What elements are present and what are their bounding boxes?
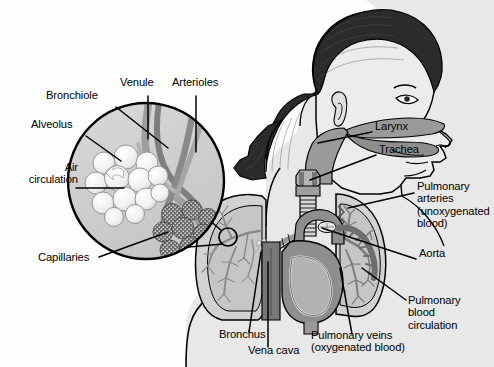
label-vena-cava: Vena cava (248, 344, 299, 356)
label-pulmonary-blood-circulation: Pulmonary blood circulation (408, 294, 461, 331)
label-trachea: Trachea (379, 143, 419, 155)
label-arterioles: Arterioles (172, 76, 218, 88)
label-larynx: Larynx (375, 120, 408, 132)
label-capillaries: Capillaries (38, 251, 89, 263)
respiratory-system-diagram: Bronchiole Alveolus Air circulation Capi… (0, 0, 494, 367)
label-alveolus: Alveolus (31, 118, 73, 130)
label-aorta: Aorta (419, 247, 445, 259)
vena-cava (262, 242, 280, 320)
label-pulmonary-arteries: Pulmonary arteries (unoxygenated blood) (417, 180, 490, 230)
label-pulmonary-veins: Pulmonary veins (oxygenated blood) (311, 329, 405, 354)
head-profile (234, 10, 452, 194)
label-bronchus: Bronchus (219, 328, 265, 340)
label-bronchiole: Bronchiole (46, 89, 98, 101)
label-air-circulation: Air circulation (10, 161, 78, 186)
label-venule: Venule (120, 76, 154, 88)
